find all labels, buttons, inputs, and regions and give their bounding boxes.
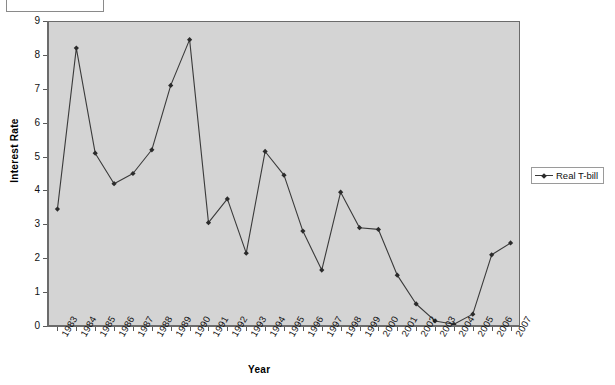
x-axis-tick xyxy=(303,327,304,331)
x-axis-tick xyxy=(473,327,474,331)
x-axis-tick xyxy=(435,327,436,331)
x-axis-tick xyxy=(171,327,172,331)
x-axis-tick xyxy=(76,327,77,331)
y-axis-tick xyxy=(43,326,47,327)
x-axis-tick xyxy=(208,327,209,331)
y-axis-tick-label: 3 xyxy=(20,219,40,229)
y-axis-tick xyxy=(43,224,47,225)
legend-item-label: Real T-bill xyxy=(556,170,598,181)
series-real-t-bill xyxy=(49,22,519,325)
x-axis-tick xyxy=(265,327,266,331)
data-point-marker xyxy=(338,190,343,195)
y-axis-tick-label: 6 xyxy=(20,118,40,128)
x-axis-tick xyxy=(378,327,379,331)
y-axis-tick xyxy=(43,123,47,124)
y-axis-tick xyxy=(43,292,47,293)
data-point-marker xyxy=(300,229,305,234)
y-axis-tick xyxy=(43,89,47,90)
x-axis-tick xyxy=(114,327,115,331)
x-axis-tick xyxy=(454,327,455,331)
y-axis-tick-label: 4 xyxy=(20,185,40,195)
data-point-marker xyxy=(319,267,324,272)
x-axis-tick xyxy=(95,327,96,331)
x-axis-tick xyxy=(284,327,285,331)
y-axis-tick-label: 7 xyxy=(20,84,40,94)
x-axis-tick xyxy=(341,327,342,331)
data-point-marker xyxy=(93,151,98,156)
data-point-marker xyxy=(244,251,249,256)
x-axis-tick xyxy=(360,327,361,331)
y-axis-tick xyxy=(43,190,47,191)
x-axis-tick xyxy=(190,327,191,331)
data-point-marker xyxy=(357,225,362,230)
data-point-marker xyxy=(508,240,513,245)
y-axis-tick-label: 1 xyxy=(20,287,40,297)
x-axis-tick xyxy=(416,327,417,331)
chart-title-box xyxy=(6,0,104,12)
x-axis-tick xyxy=(322,327,323,331)
data-point-marker xyxy=(489,252,494,257)
x-axis-tick xyxy=(133,327,134,331)
chart-legend: Real T-bill xyxy=(531,167,604,184)
diamond-marker-icon xyxy=(535,171,553,180)
x-axis-tick xyxy=(492,327,493,331)
x-axis-title: Year xyxy=(248,364,270,375)
data-point-marker xyxy=(55,206,60,211)
data-point-marker xyxy=(74,46,79,51)
y-axis-tick xyxy=(43,258,47,259)
y-axis-tick-label: 2 xyxy=(20,253,40,263)
data-point-marker xyxy=(187,37,192,42)
x-axis-tick xyxy=(227,327,228,331)
y-axis-tick-label: 5 xyxy=(20,152,40,162)
plot-area xyxy=(48,21,520,326)
data-point-marker xyxy=(111,181,116,186)
x-axis-tick xyxy=(397,327,398,331)
y-axis-tick-label: 0 xyxy=(20,321,40,331)
data-point-marker xyxy=(168,83,173,88)
y-axis-tick-label: 8 xyxy=(20,50,40,60)
y-axis-tick xyxy=(43,55,47,56)
data-point-marker xyxy=(376,227,381,232)
y-axis-tick-label: 9 xyxy=(20,16,40,26)
chart-page: 0123456789 Interest Rate 198319841985198… xyxy=(0,0,615,385)
x-axis-tick xyxy=(246,327,247,331)
series-line xyxy=(57,40,510,325)
x-axis-tick xyxy=(57,327,58,331)
x-axis-tick xyxy=(152,327,153,331)
y-axis-tick xyxy=(43,21,47,22)
y-axis-title: Interest Rate xyxy=(9,91,20,211)
x-axis-tick xyxy=(511,327,512,331)
y-axis-tick xyxy=(43,157,47,158)
